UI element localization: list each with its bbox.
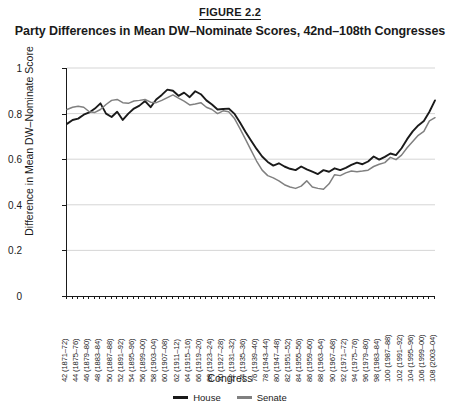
x-axis-label: Congress — [0, 372, 460, 384]
figure-number-text: FIGURE 2.2 — [199, 6, 261, 20]
y-axis-tick-label: 0.4 — [0, 199, 22, 210]
legend-label: Senate — [257, 392, 287, 403]
plot-area — [66, 68, 435, 297]
y-axis-tick-label: 0.8 — [0, 108, 22, 119]
x-axis-tickmark — [434, 296, 435, 299]
chart-legend: HouseSenate — [0, 392, 460, 403]
y-axis-label: Difference in Mean DW–Nominate Score — [23, 26, 35, 256]
y-axis-tick-label: 1 — [0, 63, 22, 74]
legend-label: House — [193, 392, 220, 403]
figure-title: Party Differences in Mean DW–Nominate Sc… — [0, 24, 460, 38]
figure-container: FIGURE 2.2 Party Differences in Mean DW–… — [0, 0, 460, 418]
data-series-layer — [67, 68, 435, 296]
legend-swatch-house — [173, 396, 188, 398]
y-axis-tick-label: 0.2 — [0, 245, 22, 256]
legend-swatch-senate — [237, 396, 252, 398]
figure-number: FIGURE 2.2 — [0, 6, 460, 18]
legend-item-senate[interactable]: Senate — [237, 392, 287, 403]
y-axis-tick-label: 0 — [0, 291, 22, 302]
y-axis-tick-label: 0.6 — [0, 154, 22, 165]
legend-item-house[interactable]: House — [173, 392, 220, 403]
x-axis-tick-labels: 42 (1871–72)44 (1875–76)46 (1879–80)48 (… — [66, 298, 434, 382]
